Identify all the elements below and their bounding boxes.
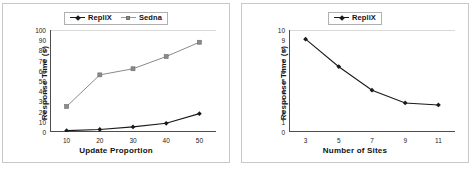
y-tick-label: 20 bbox=[39, 108, 46, 115]
y-tick-label: 2 bbox=[281, 108, 285, 115]
y-tick-label: 0 bbox=[42, 129, 46, 136]
y-tick-label: 90 bbox=[39, 37, 46, 44]
y-tick-label: 80 bbox=[39, 47, 46, 54]
chart-panel-right: RepliX Response Time (s) 012345678910 35… bbox=[241, 3, 469, 163]
y-tick-label: 30 bbox=[39, 98, 46, 105]
x-tick-label: 50 bbox=[196, 137, 203, 144]
x-axis-title-left: Update Proportion bbox=[3, 146, 229, 155]
x-axis-title-right: Number of Sites bbox=[242, 146, 468, 155]
plot-area-right: Response Time (s) 012345678910 357911 Nu… bbox=[242, 4, 468, 162]
y-tick-label: 40 bbox=[39, 88, 46, 95]
x-tick-label: 30 bbox=[129, 137, 136, 144]
y-tick-label: 70 bbox=[39, 57, 46, 64]
y-tick-label: 9 bbox=[281, 37, 285, 44]
x-tick-label: 20 bbox=[96, 137, 103, 144]
y-axis-ticks-right: 012345678910 bbox=[265, 30, 285, 132]
chart-panel-left: RepliX Sedna Response Time (s) 010203040… bbox=[2, 3, 230, 163]
y-tick-label: 10 bbox=[278, 27, 285, 34]
x-tick-label: 3 bbox=[304, 137, 308, 144]
y-tick-label: 100 bbox=[35, 27, 46, 34]
y-tick-label: 5 bbox=[281, 78, 285, 85]
figure-container: RepliX Sedna Response Time (s) 010203040… bbox=[0, 0, 475, 173]
y-tick-label: 6 bbox=[281, 67, 285, 74]
plot-area-left: Response Time (s) 0102030405060708090100… bbox=[3, 4, 229, 162]
x-tick-label: 5 bbox=[337, 137, 341, 144]
y-tick-label: 7 bbox=[281, 57, 285, 64]
y-tick-label: 8 bbox=[281, 47, 285, 54]
plot-svg-left bbox=[50, 30, 216, 132]
y-axis-ticks-left: 0102030405060708090100 bbox=[26, 30, 46, 132]
y-tick-label: 60 bbox=[39, 67, 46, 74]
y-tick-label: 10 bbox=[39, 118, 46, 125]
y-tick-label: 1 bbox=[281, 118, 285, 125]
x-tick-label: 11 bbox=[435, 137, 442, 144]
x-tick-label: 10 bbox=[63, 137, 70, 144]
plot-svg-right bbox=[289, 30, 455, 132]
y-tick-label: 0 bbox=[281, 129, 285, 136]
x-tick-label: 7 bbox=[370, 137, 374, 144]
x-tick-label: 40 bbox=[163, 137, 170, 144]
x-tick-label: 9 bbox=[403, 137, 407, 144]
y-tick-label: 4 bbox=[281, 88, 285, 95]
y-tick-label: 50 bbox=[39, 78, 46, 85]
y-tick-label: 3 bbox=[281, 98, 285, 105]
